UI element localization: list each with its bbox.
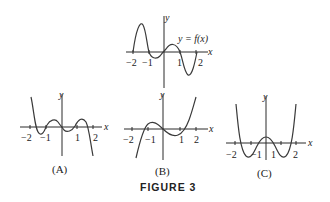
main-tick-1: 1 — [177, 57, 182, 68]
a-tick-1: 1 — [75, 132, 80, 143]
c-tick-neg1: −1 — [251, 149, 262, 160]
a-tick-neg2: −2 — [21, 132, 32, 143]
main-y-label: y — [164, 12, 170, 23]
option-c-label: (C) — [257, 167, 272, 180]
option-a-graph: y x −2 −1 1 2 (A) — [20, 89, 109, 176]
b-curve — [136, 97, 196, 158]
option-c-graph: y x −2 −1 1 2 (C) — [226, 91, 313, 180]
main-tick-neg2: −2 — [126, 57, 137, 68]
b-x-label: x — [208, 123, 214, 134]
figure-canvas: y x y = f(x) −2 −1 1 2 y x −2 −1 1 2 (A)… — [0, 0, 330, 202]
b-y-label: y — [159, 89, 165, 100]
function-label: y = f(x) — [177, 33, 209, 45]
c-x-label: x — [307, 137, 313, 148]
option-a-label: (A) — [52, 163, 68, 176]
b-tick-neg1: −1 — [145, 134, 156, 145]
a-y-label: y — [58, 89, 64, 100]
b-tick-neg2: −2 — [123, 134, 134, 145]
main-tick-neg1: −1 — [142, 57, 153, 68]
option-b-graph: y x −2 −1 1 2 (B) — [123, 89, 214, 178]
b-tick-2: 2 — [194, 134, 199, 145]
main-graph: y x y = f(x) −2 −1 1 2 — [126, 12, 213, 88]
c-y-label: y — [262, 91, 268, 102]
main-tick-2: 2 — [198, 57, 203, 68]
option-b-label: (B) — [155, 165, 170, 178]
a-tick-2: 2 — [93, 132, 98, 143]
c-tick-2: 2 — [293, 149, 298, 160]
main-x-label: x — [207, 46, 213, 57]
a-x-label: x — [103, 121, 109, 132]
a-tick-neg1: −1 — [40, 132, 51, 143]
b-tick-1: 1 — [179, 134, 184, 145]
c-tick-1: 1 — [271, 149, 276, 160]
figure-caption: FIGURE 3 — [140, 181, 196, 193]
c-tick-neg2: −2 — [226, 149, 237, 160]
